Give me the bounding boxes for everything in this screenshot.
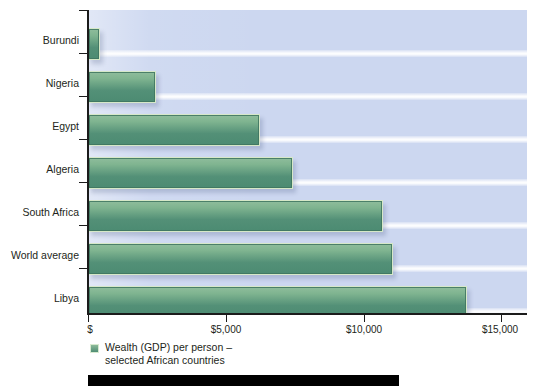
bar-algeria[interactable] xyxy=(88,157,293,189)
y-axis-label-burundi: Burundi xyxy=(3,34,79,46)
bar-inner-edge xyxy=(89,115,259,145)
plot-area xyxy=(88,10,527,313)
x-axis-tick xyxy=(88,314,89,322)
x-axis-label-15000: $15,000 xyxy=(482,324,518,336)
y-axis-labels: Burundi Nigeria Egypt Algeria South Afri… xyxy=(0,0,79,386)
bar-chart-figure: Burundi Nigeria Egypt Algeria South Afri… xyxy=(0,0,542,386)
legend-label: Wealth (GDP) per person – selected Afric… xyxy=(105,341,232,367)
y-axis-tick xyxy=(79,268,88,269)
x-axis-label-0: $ xyxy=(87,324,93,336)
legend: Wealth (GDP) per person – selected Afric… xyxy=(90,341,232,367)
x-axis-tick xyxy=(364,314,365,322)
y-axis-tick xyxy=(79,139,88,140)
x-axis-line xyxy=(88,313,527,315)
y-axis-tick xyxy=(79,225,88,226)
y-axis-tick xyxy=(79,10,88,11)
bar-egypt[interactable] xyxy=(88,114,260,146)
bar-inner-edge xyxy=(89,72,155,102)
bar-south-africa[interactable] xyxy=(88,200,383,232)
y-axis-tick xyxy=(79,182,88,183)
bar-libya[interactable] xyxy=(88,286,467,313)
bar-world-average[interactable] xyxy=(88,243,393,275)
x-axis-label-5000: $5,000 xyxy=(211,324,242,336)
bar-nigeria[interactable] xyxy=(88,71,156,103)
legend-swatch-icon xyxy=(90,344,99,353)
y-axis-label-libya: Libya xyxy=(3,292,79,304)
y-axis-label-egypt: Egypt xyxy=(3,120,79,132)
bar-burundi[interactable] xyxy=(88,28,100,60)
bar-inner-edge xyxy=(89,201,382,231)
y-axis-label-algeria: Algeria xyxy=(3,163,79,175)
y-axis-tick xyxy=(79,96,88,97)
row-separator xyxy=(88,50,527,57)
x-axis-label-10000: $10,000 xyxy=(346,324,382,336)
x-axis-tick xyxy=(226,314,227,322)
y-axis-tick xyxy=(79,53,88,54)
bar-inner-edge xyxy=(89,244,392,274)
y-axis-label-world-average: World average xyxy=(3,249,79,261)
bar-inner-edge xyxy=(89,158,292,188)
bar-inner-edge xyxy=(89,29,99,59)
y-axis-label-nigeria: Nigeria xyxy=(3,77,79,89)
footer-rule xyxy=(88,375,399,386)
bar-inner-edge xyxy=(89,287,466,313)
y-axis-label-south-africa: South Africa xyxy=(3,206,79,218)
x-axis-tick xyxy=(501,314,502,322)
